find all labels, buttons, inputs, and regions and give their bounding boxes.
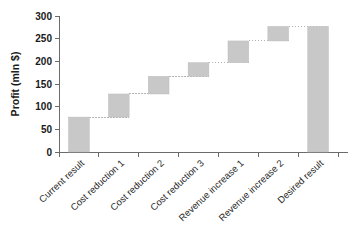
bar-increase: [108, 94, 129, 117]
x-axis-ticks: [59, 152, 338, 157]
bar-increase: [268, 26, 289, 41]
bar-total: [308, 26, 329, 152]
y-axis-ticks: 050100150200250300: [35, 11, 59, 158]
chart-canvas: Profit (mln $) 050100150200250300 Curren…: [0, 0, 357, 245]
plot-axes: [59, 16, 348, 152]
y-tick-label: 250: [35, 33, 52, 44]
bar-increase: [148, 76, 169, 94]
y-tick-label: 100: [35, 101, 52, 112]
waterfall-chart: Profit (mln $) 050100150200250300 Curren…: [0, 0, 357, 245]
bar-total: [69, 117, 90, 152]
y-tick-label: 50: [41, 124, 53, 135]
bar-increase: [228, 41, 249, 63]
bar-increase: [188, 63, 209, 77]
y-axis-title-text: Profit (mln $): [9, 52, 21, 117]
y-tick-label: 200: [35, 56, 52, 67]
x-axis-category-labels: Current resultCost reduction 1Cost reduc…: [37, 157, 326, 223]
bar-series: [69, 26, 329, 152]
y-axis-title: Profit (mln $): [9, 52, 21, 117]
y-tick-label: 300: [35, 11, 52, 22]
y-tick-label: 150: [35, 79, 52, 90]
y-tick-label: 0: [46, 147, 52, 158]
